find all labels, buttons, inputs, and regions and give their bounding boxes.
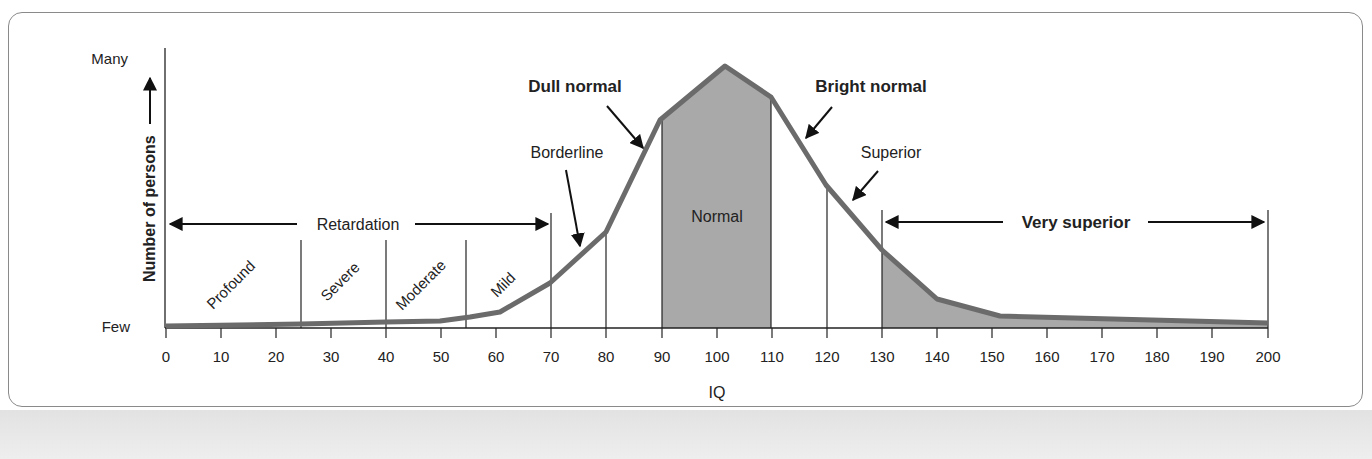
tick-label: 40	[378, 348, 395, 365]
severe-label: Severe	[317, 258, 363, 304]
very-superior-label: Very superior	[1022, 213, 1131, 232]
tick-label: 60	[488, 348, 505, 365]
x-axis-label: IQ	[709, 384, 726, 401]
superior-arrow	[853, 171, 878, 200]
tick-label: 130	[869, 348, 894, 365]
tick-label: 80	[598, 348, 615, 365]
tick-label: 100	[704, 348, 729, 365]
tick-label: 200	[1255, 348, 1280, 365]
y-axis-label: Number of persons	[141, 135, 158, 282]
x-axis-ticks	[166, 328, 1268, 338]
dull-normal-arrow	[607, 106, 643, 148]
tick-label: 110	[760, 348, 784, 365]
tick-label: 160	[1034, 348, 1059, 365]
y-label-many: Many	[91, 50, 128, 67]
tick-label: 120	[814, 348, 839, 365]
tick-label: 20	[268, 348, 285, 365]
tick-label: 190	[1199, 348, 1224, 365]
tick-label: 70	[543, 348, 560, 365]
borderline-label: Borderline	[531, 144, 604, 161]
moderate-label: Moderate	[392, 256, 449, 313]
x-tick-labels: 0 10 20 30 40 50 60 70 80 90 100 110 120…	[162, 348, 1281, 365]
borderline-arrow	[566, 170, 580, 246]
tick-label: 180	[1144, 348, 1169, 365]
tick-label: 0	[162, 348, 170, 365]
retardation-label: Retardation	[317, 216, 400, 233]
normal-label: Normal	[691, 208, 743, 225]
mild-label: Mild	[487, 269, 518, 300]
tick-label: 10	[213, 348, 230, 365]
tick-label: 170	[1089, 348, 1114, 365]
dull-normal-label: Dull normal	[528, 77, 622, 96]
y-label-few: Few	[102, 318, 131, 335]
tick-label: 90	[654, 348, 671, 365]
iq-distribution-chart: 0 10 20 30 40 50 60 70 80 90 100 110 120…	[0, 0, 1372, 459]
tick-label: 30	[323, 348, 340, 365]
tick-label: 50	[433, 348, 450, 365]
tick-label: 150	[979, 348, 1004, 365]
tick-label: 140	[924, 348, 949, 365]
bright-normal-label: Bright normal	[815, 77, 926, 96]
profound-label: Profound	[203, 257, 258, 312]
superior-label: Superior	[861, 144, 922, 161]
bright-normal-arrow	[806, 107, 832, 138]
